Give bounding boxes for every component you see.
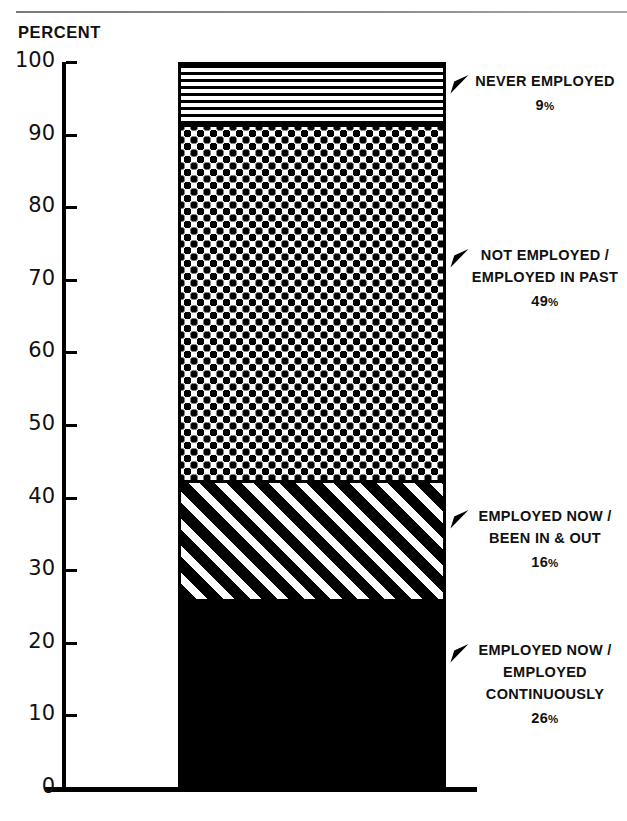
y-tick-40 xyxy=(66,497,77,500)
y-tick-90 xyxy=(66,134,77,137)
bar-segment-employed-now-employed-continuously[interactable] xyxy=(181,599,443,788)
y-tick-30 xyxy=(66,569,77,572)
y-tick-0 xyxy=(66,787,77,790)
y-tick-label-40: 40 xyxy=(28,484,55,508)
callout-line: CONTINUOUSLY xyxy=(466,683,624,705)
y-tick-10 xyxy=(66,714,77,717)
y-tick-50 xyxy=(66,424,77,427)
callout-never-employed: NEVER EMPLOYED9% xyxy=(466,70,624,120)
y-tick-label-20: 20 xyxy=(28,629,55,653)
y-tick-label-30: 30 xyxy=(28,556,55,580)
callout-line: NEVER EMPLOYED xyxy=(466,70,624,92)
y-tick-80 xyxy=(66,206,77,209)
y-tick-label-60: 60 xyxy=(28,338,55,362)
y-tick-label-90: 90 xyxy=(28,121,55,145)
y-tick-20 xyxy=(66,642,77,645)
y-tick-label-50: 50 xyxy=(28,411,55,435)
callout-line: BEEN IN & OUT xyxy=(466,527,624,549)
callout-line: EMPLOYED xyxy=(466,661,624,683)
callout-line: NOT EMPLOYED / xyxy=(466,244,624,266)
callout-percent-value: 26% xyxy=(466,705,624,733)
percent-sign-icon: % xyxy=(544,100,555,112)
callout-line: EMPLOYED NOW / xyxy=(466,639,624,661)
bar-segment-never-employed[interactable] xyxy=(181,62,443,127)
callout-percent-value: 49% xyxy=(466,288,624,316)
y-tick-label-10: 10 xyxy=(28,701,55,725)
y-tick-label-0: 0 xyxy=(42,774,55,798)
callout-percent-value: 9% xyxy=(466,92,624,120)
y-tick-label-80: 80 xyxy=(28,193,55,217)
callout-employed-now-employed-continuously: EMPLOYED NOW /EMPLOYEDCONTINUOUSLY26% xyxy=(466,639,624,733)
callout-line: EMPLOYED NOW / xyxy=(466,505,624,527)
y-tick-100 xyxy=(66,61,77,64)
percent-sign-icon: % xyxy=(548,296,559,308)
bar-segment-employed-now-been-in-and-out[interactable] xyxy=(181,483,443,599)
bar-segment-not-employed-employed-in-past[interactable] xyxy=(181,127,443,483)
callout-line: EMPLOYED IN PAST xyxy=(466,266,624,288)
stacked-bar[interactable] xyxy=(178,62,446,789)
callout-percent-value: 16% xyxy=(466,549,624,577)
callout-employed-now-been-in-and-out: EMPLOYED NOW /BEEN IN & OUT16% xyxy=(466,505,624,577)
y-tick-label-70: 70 xyxy=(28,266,55,290)
chart-plot-area: 1009080706050403020100 NEVER EMPLOYED9%N… xyxy=(0,0,627,821)
y-tick-70 xyxy=(66,279,77,282)
y-tick-60 xyxy=(66,351,77,354)
callout-not-employed-employed-in-past: NOT EMPLOYED /EMPLOYED IN PAST49% xyxy=(466,244,624,316)
percent-sign-icon: % xyxy=(548,557,559,569)
percent-sign-icon: % xyxy=(548,713,559,725)
y-tick-label-100: 100 xyxy=(15,48,55,72)
